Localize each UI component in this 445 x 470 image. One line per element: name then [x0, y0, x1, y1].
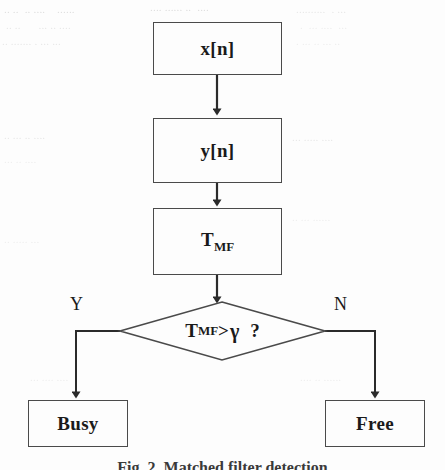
node-statistic: TMF: [153, 208, 282, 275]
branch-label-no-text: N: [334, 294, 347, 314]
node-input: x[n]: [153, 22, 282, 75]
arrow-yes-branch-to-busy: [76, 331, 120, 395]
node-decision-label: TMF>γ?: [120, 302, 325, 360]
decision-label-base: T: [185, 320, 198, 342]
node-filtered: y[n]: [153, 118, 282, 183]
node-free: Free: [325, 400, 425, 447]
branch-label-yes-text: Y: [70, 294, 83, 314]
node-free-label: Free: [356, 413, 394, 435]
node-statistic-label-base: T: [201, 229, 214, 250]
decision-operator: >: [218, 320, 229, 342]
branch-label-no: N: [334, 294, 347, 315]
decision-question-mark: ?: [240, 320, 260, 342]
node-statistic-label: TMF: [201, 229, 234, 255]
node-filtered-label: y[n]: [201, 140, 235, 162]
node-decision: TMF>γ?: [120, 302, 325, 360]
branch-label-yes: Y: [70, 294, 83, 315]
node-input-label: x[n]: [201, 38, 235, 60]
node-statistic-label-subscript: MF: [214, 238, 234, 253]
figure-canvas: .. .. .. .... ...... .. .. ... .. .... .…: [0, 0, 445, 470]
figure-caption: Fig. 2. Matched filter detection: [0, 459, 445, 470]
arrow-no-branch-to-free: [325, 331, 375, 395]
decision-label-subscript: MF: [198, 323, 218, 339]
node-busy: Busy: [28, 400, 128, 447]
decision-threshold-symbol: γ: [229, 320, 240, 343]
node-busy-label: Busy: [57, 413, 98, 435]
